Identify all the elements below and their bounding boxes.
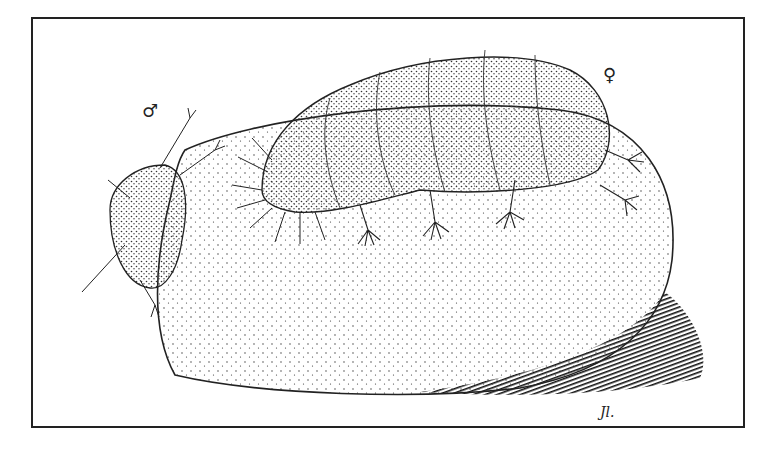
artist-signature: Jl. <box>600 404 615 420</box>
male-tardigrade <box>110 165 186 288</box>
female-symbol: ♀ <box>603 66 616 84</box>
male-symbol: ♂ <box>142 102 158 120</box>
tardigrade-illustration <box>0 0 759 452</box>
